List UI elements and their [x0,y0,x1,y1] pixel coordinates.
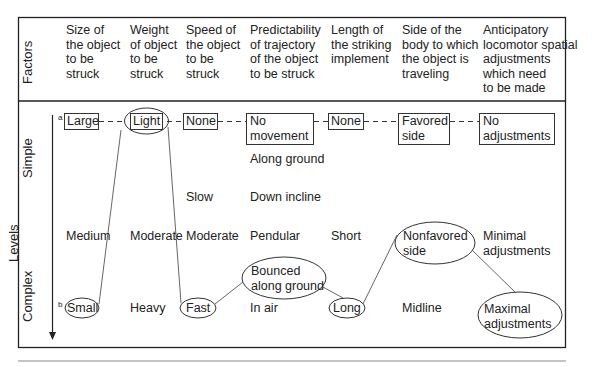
task-complexity-diagram: Factors Simple Levels Complex a b Size o… [0,0,596,367]
header-speed: Speed of the object to be struck [186,23,240,81]
cell-adjustments-medium: Minimal adjustments [483,229,550,258]
simple-label: Simple [20,138,35,178]
cell-trajectory-simple: No movement [250,114,308,143]
cell-trajectory-bounced: Bounced along ground [251,264,324,293]
header-size: Size of the object to be struck [66,23,120,81]
cell-trajectory-complex: In air [250,301,278,316]
header-trajectory: Predictability of trajectory of the obje… [250,23,321,81]
header-weight: Weight of object to be struck [130,23,177,81]
cell-length-simple: None [331,114,361,129]
cell-side-simple: Favored side [402,114,448,143]
levels-label: Levels [6,224,21,262]
cell-side-medium: Nonfavored side [403,229,468,258]
factors-label: Factors [20,41,35,84]
cell-length-complex: Long [333,301,361,316]
cell-size-complex: Small [67,301,98,316]
cell-adjustments-simple: No adjustments [483,114,550,143]
cell-speed-simple: None [186,114,216,129]
cell-side-complex: Midline [402,301,442,316]
cell-adjustments-complex: Maximal adjustments [484,302,551,331]
header-adjustments: Anticipatory locomotor spatial adjustmen… [483,23,578,96]
arrow-head-icon [49,332,56,340]
cell-weight-medium: Moderate [130,229,183,244]
cell-trajectory-down-incline: Down incline [250,190,321,205]
cell-speed-complex: Fast [186,301,210,316]
cell-speed-slow: Slow [186,190,213,205]
header-length: Length of the striking implement [331,23,391,67]
cell-length-medium: Short [331,229,361,244]
footnote-b: b [58,300,62,309]
cell-trajectory-medium: Pendular [250,229,300,244]
header-side: Side of the body to which the object is … [402,23,478,81]
cell-weight-complex: Heavy [130,301,165,316]
footnote-a: a [58,113,62,122]
complex-label: Complex [20,271,35,322]
cell-weight-simple: Light [133,114,160,129]
cell-trajectory-along-ground: Along ground [250,152,324,167]
cell-size-medium: Medium [66,229,110,244]
cell-size-simple: Large [67,114,99,129]
cell-speed-medium: Moderate [186,229,239,244]
